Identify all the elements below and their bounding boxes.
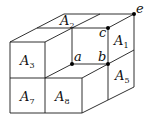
region-label-a8: A8 (54, 89, 69, 106)
region-label-subscript: 2 (69, 21, 74, 30)
edge-a-diag (45, 64, 72, 78)
edge-top-diag-2 (72, 14, 100, 28)
region-label-a5: A5 (114, 68, 129, 85)
edge-lower-top-right-diag (82, 64, 108, 78)
region-label-subscript: 8 (64, 97, 69, 106)
cube-decomposition-diagram: A1A2A3A5A7A8 abce (0, 0, 149, 120)
point-c-label: c (99, 25, 107, 40)
region-label-subscript: 5 (124, 76, 129, 85)
region-label-a7: A7 (19, 89, 34, 106)
edge-right-mid-diag (108, 50, 134, 64)
region-label-a1: A1 (113, 33, 128, 50)
point-b-dot (106, 62, 110, 66)
vertex-points: abce (70, 1, 144, 66)
point-e-label: e (136, 1, 144, 16)
region-label-a2: A2 (59, 13, 74, 30)
region-label-subscript: 7 (29, 97, 34, 106)
point-a-label: a (74, 49, 82, 64)
point-b-label: b (98, 49, 106, 64)
point-c-dot (106, 26, 110, 30)
region-label-subscript: 1 (123, 41, 128, 50)
region-label-a3: A3 (19, 53, 34, 70)
edge-top-right-diag (108, 14, 134, 28)
region-label-subscript: 3 (29, 61, 34, 70)
edge-top-diag-1 (45, 28, 72, 42)
